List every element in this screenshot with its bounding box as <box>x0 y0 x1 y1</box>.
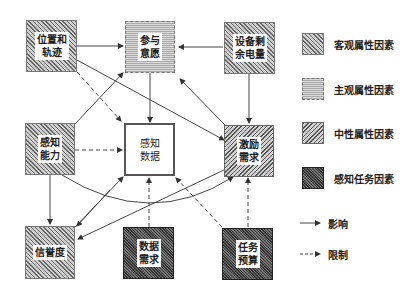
legend-swatch-neutral <box>302 122 324 144</box>
node-position: 位置和轨迹 <box>26 20 77 72</box>
legend-label: 影响 <box>328 216 348 231</box>
node-label: 位置和 <box>37 33 67 46</box>
legend-objective: 客观属性因素 <box>302 33 394 55</box>
legend-label: 客观属性因素 <box>334 37 394 52</box>
node-label: 激励 <box>239 138 259 151</box>
node-battery: 设备剩余电量 <box>224 22 275 74</box>
edge-capability-willingness <box>75 73 123 124</box>
node-label: 感知 <box>140 137 160 150</box>
legend-constraint: 限制 <box>324 247 348 262</box>
legend-swatch-task <box>302 167 324 189</box>
legend-task: 感知任务因素 <box>302 167 394 189</box>
edge-position-data <box>77 72 121 121</box>
node-capability: 感知能力 <box>25 123 75 175</box>
edge-incentive-willingness <box>180 79 225 125</box>
node-sensing-data: 感知数据 <box>124 123 175 176</box>
node-label: 余电量 <box>235 48 265 61</box>
node-data-demand: 数据需求 <box>123 227 174 279</box>
legend-neutral: 中性属性因素 <box>302 122 394 144</box>
legend-influence: 影响 <box>324 216 348 231</box>
legend-label: 感知任务因素 <box>334 171 394 186</box>
node-label: 任务 <box>238 241 258 254</box>
node-label: 数据 <box>139 240 159 253</box>
node-label: 参与 <box>140 34 160 47</box>
node-label: 信誉度 <box>35 246 65 259</box>
node-label: 需求 <box>239 151 259 164</box>
node-label: 需求 <box>139 253 159 266</box>
node-label: 意愿 <box>140 47 160 60</box>
legend-swatch-objective <box>302 33 324 55</box>
node-incentive: 激励需求 <box>224 125 274 177</box>
node-label: 感知 <box>40 136 60 149</box>
node-budget: 任务预算 <box>222 228 273 280</box>
node-label: 数据 <box>140 150 160 163</box>
node-label: 设备剩 <box>235 35 265 48</box>
legend-subjective: 主观属性因素 <box>302 78 394 100</box>
node-label: 轨迹 <box>37 46 67 59</box>
legend-label: 限制 <box>328 247 348 262</box>
edge-budget-data <box>176 178 222 227</box>
node-willingness: 参与意愿 <box>125 21 175 73</box>
legend-swatch-subjective <box>302 78 324 100</box>
node-label: 能力 <box>40 149 60 162</box>
legend-label: 中性属性因素 <box>334 126 394 141</box>
legend-label: 主观属性因素 <box>334 82 394 97</box>
node-reputation: 信誉度 <box>25 226 75 279</box>
edge-capability-incentive <box>62 175 233 203</box>
node-label: 预算 <box>238 254 258 267</box>
